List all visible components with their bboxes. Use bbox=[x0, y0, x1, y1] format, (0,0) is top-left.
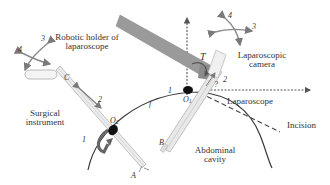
right-motion-arrow-4 bbox=[225, 18, 240, 45]
scope-motion-question: ? bbox=[214, 80, 218, 89]
right-motion-number-3: 3 bbox=[252, 22, 256, 31]
abdominal-cavity-label: Abdominal cavity bbox=[190, 146, 240, 164]
abdominal-cavity-line2: cavity bbox=[190, 155, 240, 164]
laparoscopic-camera-line2: camera bbox=[232, 60, 292, 69]
point-O1-subscript: 1 bbox=[189, 98, 192, 104]
right-motion-arrow-3 bbox=[215, 30, 252, 32]
surgical-instrument-line2: instrument bbox=[20, 118, 70, 127]
instrument-tip bbox=[139, 166, 149, 172]
curve-number-1: 1 bbox=[168, 86, 172, 95]
point-B: B bbox=[159, 138, 164, 147]
point-f: f bbox=[149, 99, 151, 108]
point-A: A bbox=[131, 171, 136, 180]
laparoscope-label: Laparoscope bbox=[227, 97, 273, 106]
point-O2-subscript: 2 bbox=[116, 119, 119, 125]
robotic-holder-label: Robotic holder of laparoscope bbox=[52, 33, 122, 51]
instrument-motion-number-2: 2 bbox=[98, 95, 102, 104]
robotic-holder-line2: laparoscope bbox=[52, 42, 122, 51]
point-C: C bbox=[64, 73, 69, 82]
instrument-motion-number-1: 1 bbox=[82, 135, 86, 144]
laparoscopy-diagram: Robotic holder of laparoscope Laparoscop… bbox=[0, 0, 330, 185]
point-O2: O2 bbox=[110, 116, 119, 127]
laparoscopic-camera-label: Laparoscopic camera bbox=[232, 51, 292, 69]
left-motion-number-4: 4 bbox=[18, 45, 22, 54]
diagram-graphics bbox=[0, 0, 330, 185]
port-O1 bbox=[183, 86, 193, 94]
scope-motion-number-2: 2 bbox=[223, 75, 227, 84]
right-motion-number-4: 4 bbox=[228, 11, 232, 20]
surgical-instrument-label: Surgical instrument bbox=[20, 109, 70, 127]
point-O1: O1 bbox=[183, 95, 192, 106]
point-T: T bbox=[200, 52, 206, 61]
laparoscopic-camera-body bbox=[208, 50, 226, 78]
instrument-handle bbox=[25, 70, 57, 79]
robotic-holder-arm bbox=[116, 15, 212, 78]
incision-label: Incision bbox=[287, 121, 316, 130]
left-motion-number-3: 3 bbox=[41, 34, 45, 43]
